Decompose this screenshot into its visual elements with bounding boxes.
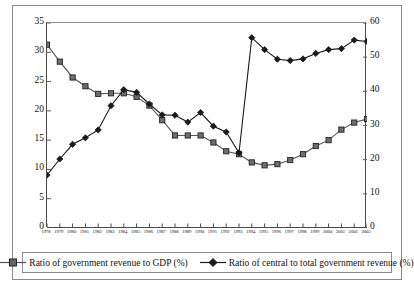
series-line bbox=[47, 45, 367, 166]
axis-tick-label: 1992 bbox=[221, 229, 230, 234]
data-point-marker bbox=[351, 37, 357, 43]
axis-tick-label: 1983 bbox=[105, 229, 114, 234]
axis-tick-label: 1979 bbox=[54, 229, 63, 234]
data-point-marker bbox=[300, 56, 306, 62]
data-point-marker bbox=[249, 160, 254, 165]
axis-tick-label: 2001 bbox=[336, 229, 345, 234]
axis-tick-label: 10 bbox=[20, 164, 44, 174]
legend-label-central-to-total: Ratio of central to total government rev… bbox=[229, 258, 414, 268]
axis-tick-label: 0 bbox=[370, 222, 396, 232]
data-point-marker bbox=[364, 116, 367, 121]
axis-tick-label: 2002 bbox=[349, 229, 358, 234]
axis-tick-label: 1981 bbox=[80, 229, 89, 234]
legend-item-central-to-total: Ratio of central to total government rev… bbox=[200, 257, 414, 268]
data-point-marker bbox=[275, 162, 280, 167]
axis-tick-label: 1984 bbox=[118, 229, 127, 234]
axis-tick-label: 1989 bbox=[182, 229, 191, 234]
data-point-marker bbox=[326, 138, 331, 143]
data-point-marker bbox=[70, 75, 75, 80]
data-point-marker bbox=[223, 129, 229, 135]
data-point-marker bbox=[352, 120, 357, 125]
plot-svg bbox=[47, 23, 367, 228]
axis-tick-label: 1995 bbox=[259, 229, 268, 234]
data-point-marker bbox=[57, 59, 62, 64]
axis-tick-label: 10 bbox=[370, 188, 396, 198]
axis-tick-label: 1988 bbox=[169, 229, 178, 234]
axis-tick-label: 1994 bbox=[246, 229, 255, 234]
axis-tick-label: 2000 bbox=[323, 229, 332, 234]
data-point-marker bbox=[287, 57, 293, 63]
axis-tick-label: 30 bbox=[370, 120, 396, 130]
axis-tick-label: 1986 bbox=[144, 229, 153, 234]
data-point-marker bbox=[95, 127, 101, 133]
axis-tick-label: 60 bbox=[370, 17, 396, 27]
data-point-marker bbox=[339, 127, 344, 132]
axis-tick-label: 30 bbox=[20, 47, 44, 57]
axis-tick-label: 1998 bbox=[297, 229, 306, 234]
axis-tick-label: 40 bbox=[370, 86, 396, 96]
legend-label-revenue-to-gdp: Ratio of government revenue to GDP (%) bbox=[29, 258, 187, 268]
data-point-marker bbox=[300, 152, 305, 157]
axis-tick-label: 5 bbox=[20, 193, 44, 203]
data-point-marker bbox=[82, 135, 88, 141]
data-point-marker bbox=[338, 46, 344, 52]
axis-tick-label: 1987 bbox=[157, 229, 166, 234]
axis-tick-label: 1985 bbox=[131, 229, 140, 234]
data-point-marker bbox=[211, 140, 216, 145]
axis-tick-label: 35 bbox=[20, 17, 44, 27]
data-point-marker bbox=[313, 50, 319, 56]
data-point-marker bbox=[326, 47, 332, 53]
y-axis-right-labels: 0102030405060 bbox=[370, 22, 396, 227]
axis-tick-label: 1997 bbox=[285, 229, 294, 234]
chart-legend: Ratio of government revenue to GDP (%) R… bbox=[22, 252, 392, 273]
axis-tick-label: 1990 bbox=[195, 229, 204, 234]
data-point-marker bbox=[172, 133, 177, 138]
data-point-marker bbox=[262, 163, 267, 168]
plot-area bbox=[46, 22, 366, 227]
y-axis-left-labels: 05101520253035 bbox=[20, 22, 44, 227]
data-point-marker bbox=[198, 133, 203, 138]
data-point-marker bbox=[47, 42, 50, 47]
axis-tick-label: 20 bbox=[370, 154, 396, 164]
diamond-marker-icon bbox=[200, 257, 226, 268]
chart-figure: 05101520253035 0102030405060 19781979198… bbox=[0, 0, 414, 291]
series-line bbox=[47, 38, 367, 175]
data-point-marker bbox=[96, 91, 101, 96]
data-point-marker bbox=[288, 157, 293, 162]
axis-tick-label: 1980 bbox=[67, 229, 76, 234]
axis-tick-label: 1982 bbox=[93, 229, 102, 234]
axis-tick-label: 2003 bbox=[361, 229, 370, 234]
axis-tick-label: 25 bbox=[20, 76, 44, 86]
data-point-marker bbox=[83, 84, 88, 89]
axis-tick-label: 0 bbox=[20, 222, 44, 232]
square-marker-icon bbox=[0, 257, 26, 268]
axis-tick-label: 50 bbox=[370, 51, 396, 61]
data-point-marker bbox=[364, 38, 367, 44]
axis-tick-label: 1993 bbox=[233, 229, 242, 234]
data-point-marker bbox=[185, 133, 190, 138]
data-point-marker bbox=[224, 149, 229, 154]
x-axis-labels: 1978197919801981198219831984198519861987… bbox=[46, 229, 366, 245]
axis-tick-label: 20 bbox=[20, 105, 44, 115]
axis-tick-label: 1978 bbox=[41, 229, 50, 234]
data-point-marker bbox=[108, 91, 113, 96]
data-point-marker bbox=[313, 143, 318, 148]
legend-item-revenue-to-gdp: Ratio of government revenue to GDP (%) bbox=[0, 257, 187, 268]
data-point-marker bbox=[172, 112, 178, 118]
axis-tick-label: 1996 bbox=[272, 229, 281, 234]
axis-tick-label: 1991 bbox=[208, 229, 217, 234]
axis-tick-label: 1999 bbox=[310, 229, 319, 234]
axis-tick-label: 15 bbox=[20, 134, 44, 144]
